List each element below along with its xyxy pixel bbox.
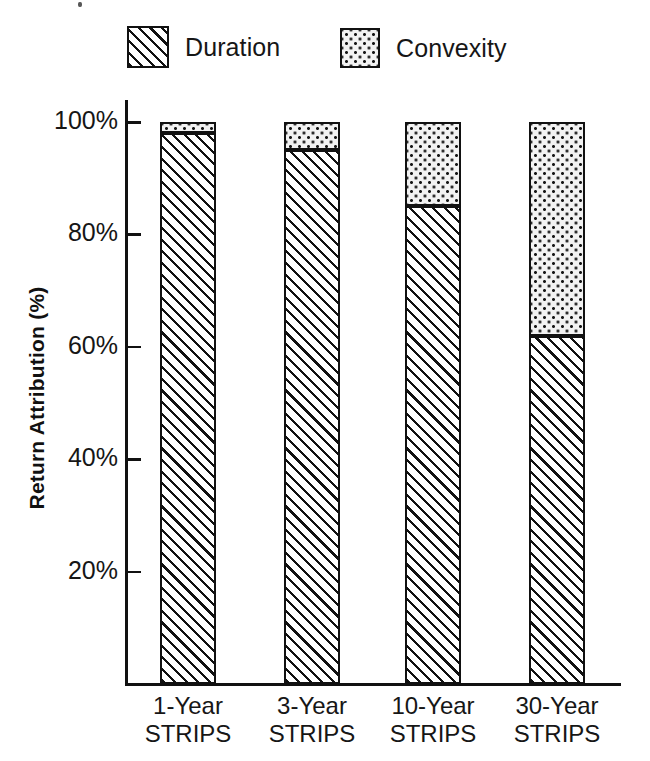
bar-segment-convexity (284, 122, 340, 150)
y-axis-tick-label-20: 20% (0, 558, 118, 584)
bar-3 (405, 122, 461, 684)
bar-segment-duration (405, 206, 461, 684)
y-axis-line (125, 100, 128, 686)
y-axis-tick-label-80: 80% (0, 220, 118, 246)
bar-segment-convexity (160, 122, 216, 133)
y-axis-tick-40 (128, 458, 141, 461)
y-axis-tick-label-text: 100% (10, 108, 118, 133)
bar-4 (529, 122, 585, 684)
y-axis-title: Return Attribution (%) (25, 248, 49, 548)
y-axis-tick-60 (128, 346, 141, 349)
plot-area: Return Attribution (%) 20%40%60%80%100% … (0, 0, 650, 761)
x-axis-label-line1: 30-Year (482, 692, 632, 720)
bar-segment-duration (284, 150, 340, 684)
y-axis-tick-80 (128, 233, 141, 236)
bar-2 (284, 122, 340, 684)
x-axis-label-line2: STRIPS (482, 720, 632, 748)
y-axis-tick-20 (128, 571, 141, 574)
y-axis-tick-label-60: 60% (0, 333, 118, 359)
bar-segment-convexity (529, 122, 585, 336)
x-axis-label-4: 30-YearSTRIPS (482, 692, 632, 749)
y-axis-tick-100 (128, 121, 141, 124)
bar-segment-duration (160, 133, 216, 684)
bar-1 (160, 122, 216, 684)
y-axis-tick-label-text: 20% (10, 558, 118, 583)
y-axis-tick-label-40: 40% (0, 445, 118, 471)
y-axis-tick-label-text: 40% (10, 445, 118, 470)
y-axis-tick-label-100: 100% (0, 108, 118, 134)
bar-segment-duration (529, 336, 585, 684)
chart-figure: Duration Convexity Return Attribution (%… (0, 0, 650, 761)
bar-segment-convexity (405, 122, 461, 206)
y-axis-tick-label-text: 80% (10, 220, 118, 245)
y-axis-tick-label-text: 60% (10, 333, 118, 358)
